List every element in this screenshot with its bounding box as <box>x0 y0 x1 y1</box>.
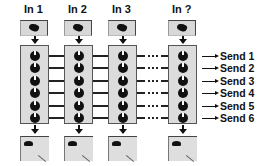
send-label-2: Send 2 <box>220 62 254 74</box>
send-knob-icon <box>178 51 188 61</box>
bus-line <box>93 105 109 107</box>
signal-icon <box>72 23 84 33</box>
signal-icon <box>116 23 128 33</box>
ellipsis-line <box>148 92 158 94</box>
ellipsis-line <box>148 55 158 57</box>
bus-line <box>137 117 145 119</box>
arrow-down-icon <box>34 36 36 41</box>
bus-line <box>137 105 145 107</box>
send-knob-icon <box>178 113 188 123</box>
bus-line <box>137 55 145 57</box>
send-knob-icon <box>118 51 128 61</box>
bus-line <box>93 80 109 82</box>
arrow-down-icon <box>122 125 124 131</box>
tear-line <box>82 155 90 162</box>
output-block-n <box>168 136 197 161</box>
signal-icon <box>68 141 77 146</box>
input-label-1: In 1 <box>24 3 43 15</box>
send-knob-icon <box>74 63 84 73</box>
send-knob-icon <box>74 113 84 123</box>
signal-icon <box>28 23 40 33</box>
send-label-1: Send 1 <box>220 50 254 62</box>
input-label-3: In 3 <box>112 3 131 15</box>
ellipsis-line <box>148 80 158 82</box>
signal-icon <box>176 23 188 33</box>
send-knob-icon <box>118 101 128 111</box>
output-block-2 <box>64 136 93 161</box>
bus-line <box>49 105 65 107</box>
send-knob-icon <box>118 63 128 73</box>
send-knob-icon <box>118 76 128 86</box>
bus-line <box>49 55 65 57</box>
send-label-6: Send 6 <box>220 112 254 124</box>
bus-line <box>93 55 109 57</box>
input-label-2: In 2 <box>68 3 87 15</box>
send-knob-icon <box>30 76 40 86</box>
send-knob-icon <box>74 76 84 86</box>
output-block-1 <box>20 136 49 161</box>
send-knob-icon <box>178 88 188 98</box>
signal-icon <box>24 141 33 146</box>
send-knob-icon <box>178 101 188 111</box>
arrow-down-icon <box>34 125 36 131</box>
ellipsis-line <box>148 67 158 69</box>
arrow-right-icon <box>202 118 217 119</box>
arrow-right-icon <box>202 56 217 57</box>
send-knob-icon <box>30 51 40 61</box>
bus-line <box>93 92 109 94</box>
send-knob-icon <box>178 76 188 86</box>
arrow-right-icon <box>202 93 217 94</box>
send-knob-icon <box>30 113 40 123</box>
send-knob-icon <box>118 113 128 123</box>
arrow-down-icon <box>78 36 80 41</box>
arrow-right-icon <box>202 106 217 107</box>
send-label-4: Send 4 <box>220 87 254 99</box>
send-knob-icon <box>30 63 40 73</box>
input-source-n <box>168 20 196 36</box>
channel-strip-n <box>168 45 197 124</box>
input-source-2 <box>64 20 92 36</box>
send-label-3: Send 3 <box>220 75 254 87</box>
signal-icon <box>172 141 181 146</box>
tear-line <box>126 155 134 162</box>
arrow-down-icon <box>182 125 184 131</box>
channel-strip-2 <box>64 45 93 124</box>
bus-line <box>137 67 145 69</box>
arrow-down-icon <box>122 36 124 41</box>
send-label-5: Send 5 <box>220 100 254 112</box>
send-knob-icon <box>30 101 40 111</box>
send-knob-icon <box>30 88 40 98</box>
bus-line <box>137 92 145 94</box>
bus-line <box>49 80 65 82</box>
bus-line <box>93 117 109 119</box>
arrow-right-icon <box>202 81 217 82</box>
output-block-3 <box>108 136 137 161</box>
arrow-down-icon <box>182 36 184 41</box>
bus-line <box>49 67 65 69</box>
input-source-1 <box>20 20 48 36</box>
input-source-3 <box>108 20 136 36</box>
arrow-down-icon <box>78 125 80 131</box>
bus-line <box>49 117 65 119</box>
bus-line <box>137 80 145 82</box>
send-knob-icon <box>74 51 84 61</box>
ellipsis-line <box>148 117 158 119</box>
tear-line <box>38 155 46 162</box>
send-knob-icon <box>74 88 84 98</box>
bus-line <box>93 67 109 69</box>
input-label-n: In ? <box>172 3 192 15</box>
ellipsis-line <box>148 105 158 107</box>
bus-line <box>49 92 65 94</box>
arrow-right-icon <box>202 68 217 69</box>
signal-icon <box>112 141 121 146</box>
channel-strip-1 <box>20 45 49 124</box>
tear-line <box>186 155 194 162</box>
send-knob-icon <box>118 88 128 98</box>
send-knob-icon <box>178 63 188 73</box>
channel-strip-3 <box>108 45 137 124</box>
send-knob-icon <box>74 101 84 111</box>
